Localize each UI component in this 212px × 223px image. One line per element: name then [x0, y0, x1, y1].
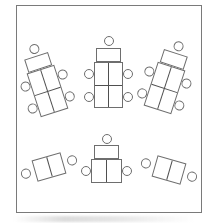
chair-icon — [122, 166, 132, 176]
chair-icon — [28, 43, 41, 56]
chair-icon — [172, 40, 185, 53]
chair-icon — [84, 92, 94, 102]
desk-divider — [166, 160, 172, 180]
seating-plan-diagram — [0, 0, 212, 223]
desk-divider — [106, 160, 107, 182]
chair-icon — [84, 69, 94, 79]
desk-cluster-bottom-center — [81, 133, 132, 183]
desk-block — [91, 159, 122, 183]
chair-icon — [123, 69, 133, 79]
desk-cluster-top-center — [84, 35, 133, 108]
desk — [94, 145, 119, 159]
chair-icon — [123, 92, 133, 102]
desk-divider — [95, 85, 122, 86]
chair-icon — [104, 36, 114, 46]
desk — [96, 48, 121, 62]
scan-artifact — [14, 216, 194, 222]
desk-block — [94, 62, 123, 108]
desk-divider — [46, 157, 52, 177]
chair-icon — [102, 134, 112, 144]
chair-icon — [20, 167, 32, 179]
chair-icon — [140, 157, 152, 169]
chair-icon — [81, 166, 91, 176]
